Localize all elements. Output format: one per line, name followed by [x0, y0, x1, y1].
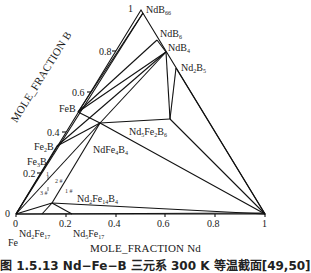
tie-line — [52, 203, 72, 214]
phase-label-ndfe4b4: NdFe4B4 — [93, 145, 128, 158]
phase-label-ndb66: NdB66 — [146, 5, 171, 18]
phase-label-nd5fe2b6: Nd5Fe2B6 — [129, 127, 167, 140]
y-tick-label: 0.2 — [23, 169, 36, 179]
tie-line — [170, 119, 265, 214]
phase-label-fe2b: Fe2B — [34, 142, 54, 155]
tie-line — [170, 68, 176, 119]
tie-line — [78, 52, 166, 112]
x-axis-title: MOLE_FRACTION Nd — [90, 242, 201, 254]
corner-label-fe: Fe — [8, 238, 18, 248]
x-tick-label: 0.6 — [157, 219, 170, 229]
y-tick-label: 0.6 — [72, 88, 85, 98]
tie-line — [78, 112, 100, 123]
tie-line — [166, 52, 170, 119]
y-tick-label: 0.8 — [99, 47, 112, 57]
triangle-outline — [16, 10, 265, 214]
marker-3-hash: 3 # — [40, 190, 48, 196]
marker-2-hash: 2 # — [55, 178, 63, 184]
y-tick-label: 1 — [128, 4, 133, 14]
phase-label-fe3b: Fe3B — [27, 157, 47, 170]
x-tick-label: 0.4 — [108, 219, 121, 229]
marker-1-hash: 1 # — [65, 188, 73, 194]
tie-line — [176, 68, 265, 214]
y-tick-label: 0.4 — [47, 128, 60, 138]
figure-caption: 图 1.5.13 Nd−Fe−B 三元系 300 K 等温截面[49,50] — [0, 256, 277, 273]
x-tick-label: 1 — [262, 219, 267, 229]
x-tick-label: 0.8 — [207, 219, 220, 229]
x-tick-label: 0 — [13, 219, 18, 229]
phase-label-feb: FeB — [59, 104, 76, 114]
tie-line — [100, 119, 170, 123]
tie-line — [78, 13, 143, 112]
phase-label-nd2b5: Nd2B5 — [181, 63, 206, 76]
phase-label-ndb4: NdB4 — [168, 43, 190, 56]
phase-label-nd2fe14b: Nd2Fe14B4 — [77, 194, 118, 207]
phase-label-nd5fe17: Nd5Fe17 — [73, 229, 104, 242]
tie-line — [78, 40, 157, 112]
tie-line — [100, 123, 265, 214]
phase-label-ndb6: NdB6 — [160, 29, 182, 42]
x-tick-label: 0.2 — [59, 219, 72, 229]
phase-label-nd2fe17: Nd2Fe17 — [19, 229, 50, 242]
tie-line-fe-ndb66 — [16, 13, 143, 214]
y-tick-label: 0 — [5, 209, 10, 219]
marker-1: 1 — [46, 171, 49, 177]
